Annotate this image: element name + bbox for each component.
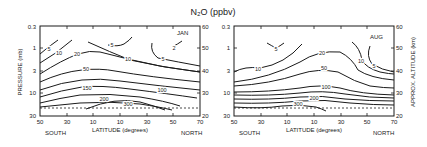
svg-text:200: 200 bbox=[99, 96, 108, 102]
figure-title: N₂O (ppbv) bbox=[190, 7, 235, 17]
svg-text:150: 150 bbox=[82, 85, 91, 91]
svg-text:20: 20 bbox=[319, 50, 325, 56]
left-panel-jan: 0.3 1 3 10 30 PRESSURE (mb) 60 50 40 30 … bbox=[17, 24, 209, 136]
right-latitude-axis-label: LATITUDE (degrees) bbox=[286, 127, 342, 133]
svg-text:10: 10 bbox=[358, 58, 364, 64]
svg-text:100: 100 bbox=[321, 84, 330, 90]
svg-text:30: 30 bbox=[29, 113, 36, 119]
svg-text:10: 10 bbox=[125, 56, 131, 62]
right-month-label: AUG bbox=[370, 34, 383, 40]
svg-text:300: 300 bbox=[293, 101, 302, 107]
svg-text:5: 5 bbox=[47, 46, 50, 52]
svg-text:50: 50 bbox=[396, 45, 403, 51]
altitude-axis-label: APPROX. ALTITUDE (km) bbox=[410, 37, 416, 107]
svg-text:30: 30 bbox=[338, 119, 345, 125]
svg-text:2: 2 bbox=[172, 45, 175, 51]
left-north-label: NORTH bbox=[181, 130, 202, 136]
svg-text:40: 40 bbox=[396, 68, 403, 74]
left-south-label: SOUTH bbox=[45, 130, 66, 136]
svg-text:30: 30 bbox=[223, 113, 230, 119]
svg-text:70: 70 bbox=[197, 119, 204, 125]
n2o-contour-figure: N₂O (ppbv) 0.3 1 3 10 30 PRESSURE (mb) 6… bbox=[0, 0, 427, 147]
svg-text:30: 30 bbox=[144, 119, 151, 125]
svg-text:50: 50 bbox=[37, 119, 44, 125]
svg-text:40: 40 bbox=[202, 68, 209, 74]
right-pressure-ticks: 0.3 1 3 10 30 bbox=[222, 24, 231, 119]
left-altitude-ticks: 60 50 40 30 20 bbox=[202, 24, 209, 119]
right-contour-labels: 55 1010 2020 5050 100100 200200 300300 1… bbox=[255, 46, 376, 107]
svg-text:10: 10 bbox=[29, 90, 36, 96]
svg-text:50: 50 bbox=[202, 45, 209, 51]
svg-text:60: 60 bbox=[396, 24, 403, 30]
svg-text:30: 30 bbox=[64, 119, 71, 125]
svg-text:0.3: 0.3 bbox=[28, 24, 37, 30]
right-latitude-ticks: 50 30 10 10 30 50 70 bbox=[231, 119, 398, 125]
svg-text:1: 1 bbox=[227, 45, 231, 51]
svg-text:10: 10 bbox=[223, 90, 230, 96]
svg-text:10: 10 bbox=[56, 50, 62, 56]
svg-text:20: 20 bbox=[74, 51, 80, 57]
svg-text:30: 30 bbox=[396, 90, 403, 96]
svg-text:30: 30 bbox=[202, 90, 209, 96]
svg-text:50: 50 bbox=[83, 66, 89, 72]
svg-text:1: 1 bbox=[33, 45, 37, 51]
left-pressure-axis-label: PRESSURE (mb) bbox=[17, 48, 23, 95]
svg-text:5: 5 bbox=[372, 63, 375, 69]
left-month-label: JAN bbox=[177, 30, 188, 36]
svg-text:100: 100 bbox=[157, 87, 166, 93]
svg-text:3: 3 bbox=[33, 68, 37, 74]
svg-text:50: 50 bbox=[231, 119, 238, 125]
left-pressure-ticks: 0.3 1 3 10 30 bbox=[28, 24, 37, 119]
svg-text:5: 5 bbox=[110, 42, 113, 48]
right-north-label: NORTH bbox=[373, 130, 394, 136]
svg-text:10: 10 bbox=[117, 119, 124, 125]
svg-text:5: 5 bbox=[161, 56, 164, 62]
right-south-label: SOUTH bbox=[239, 130, 260, 136]
svg-text:5: 5 bbox=[274, 46, 277, 52]
left-latitude-ticks: 50 30 10 10 30 50 70 bbox=[37, 119, 204, 125]
svg-text:10: 10 bbox=[284, 119, 291, 125]
svg-text:50: 50 bbox=[321, 65, 327, 71]
svg-text:70: 70 bbox=[391, 119, 398, 125]
svg-text:200: 200 bbox=[309, 95, 318, 101]
svg-text:60: 60 bbox=[202, 24, 209, 30]
svg-text:3: 3 bbox=[227, 68, 231, 74]
left-latitude-axis-label: LATITUDE (degrees) bbox=[92, 127, 148, 133]
right-altitude-ticks: 60 50 40 30 20 bbox=[396, 24, 403, 119]
svg-text:0.3: 0.3 bbox=[222, 24, 231, 30]
svg-text:10: 10 bbox=[255, 66, 261, 72]
left-contours bbox=[40, 37, 200, 110]
right-panel-aug: 0.3 1 3 10 30 60 50 40 30 20 APPROX. ALT… bbox=[222, 24, 416, 136]
svg-text:50: 50 bbox=[364, 119, 371, 125]
svg-text:10: 10 bbox=[311, 119, 318, 125]
svg-text:50: 50 bbox=[170, 119, 177, 125]
svg-text:30: 30 bbox=[258, 119, 265, 125]
svg-text:300: 300 bbox=[123, 101, 132, 107]
svg-text:10: 10 bbox=[90, 119, 97, 125]
